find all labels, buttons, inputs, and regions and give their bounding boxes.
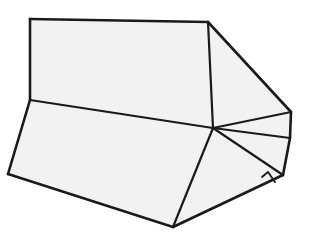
edge-right-short (290, 112, 291, 138)
polyhedron-figure (0, 0, 309, 237)
